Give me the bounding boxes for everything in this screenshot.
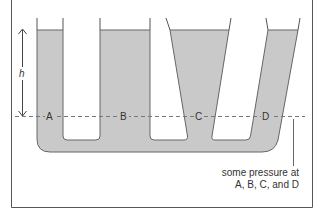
height-label: h (19, 68, 25, 79)
point-a-label: A (46, 111, 53, 122)
caption-line-1: some pressure at (222, 167, 299, 179)
point-c-label: C (195, 111, 202, 122)
caption: some pressure at A, B, C, and D (222, 167, 299, 191)
tube-walls (37, 18, 300, 30)
caption-line-2: A, B, C, and D (222, 179, 299, 191)
point-d-label: D (262, 111, 269, 122)
liquid-body (37, 30, 298, 152)
point-b-label: B (120, 111, 127, 122)
